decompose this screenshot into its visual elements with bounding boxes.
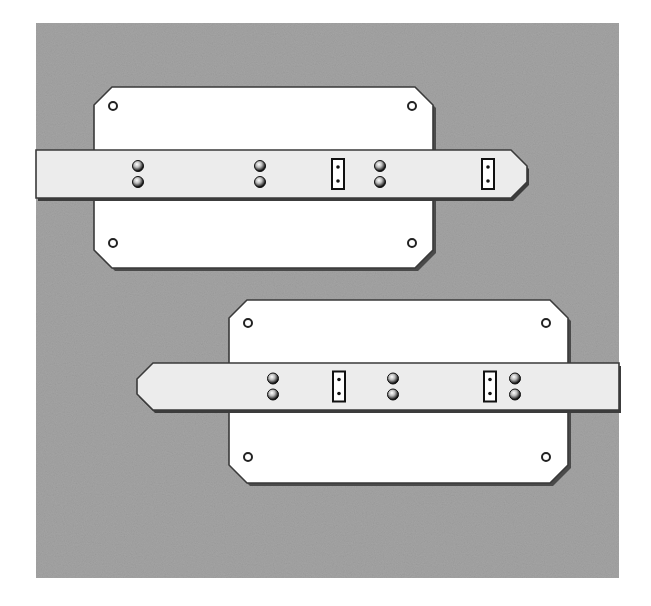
slot-pin [488, 392, 492, 396]
strap [137, 363, 619, 410]
rivet [133, 177, 144, 188]
rivet [510, 389, 521, 400]
buckle-slot [333, 372, 345, 402]
plate-hole [542, 319, 550, 327]
rivet [375, 177, 386, 188]
plate-hole [408, 102, 416, 110]
rivet [255, 177, 266, 188]
rivet [268, 373, 279, 384]
rivet [268, 389, 279, 400]
slot-pin [488, 378, 492, 382]
buckle-slot [484, 372, 496, 402]
rivet [388, 373, 399, 384]
rivet [133, 161, 144, 172]
plate-hole [109, 239, 117, 247]
slot-pin [486, 179, 490, 183]
rivet [388, 389, 399, 400]
slot-pin [336, 165, 340, 169]
buckle-slot [332, 159, 344, 189]
figure-illustration [0, 0, 651, 606]
plate-hole [109, 102, 117, 110]
rivet [510, 373, 521, 384]
buckle-slot [482, 159, 494, 189]
slot-pin [486, 165, 490, 169]
slot-pin [336, 179, 340, 183]
plate-hole [244, 319, 252, 327]
rivet [255, 161, 266, 172]
slot-pin [337, 378, 341, 382]
plate-hole [408, 239, 416, 247]
rivet [375, 161, 386, 172]
slot-pin [337, 392, 341, 396]
strap [36, 150, 527, 198]
plate-hole [244, 453, 252, 461]
plate-hole [542, 453, 550, 461]
